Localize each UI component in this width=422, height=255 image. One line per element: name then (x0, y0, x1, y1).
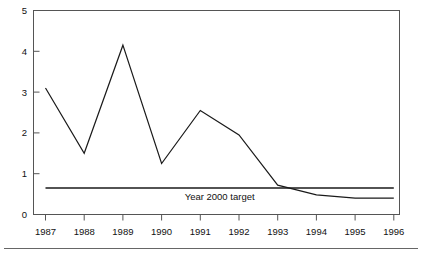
y-axis-labels: 5 4 3 2 1 0 (22, 5, 27, 220)
y-tick-label-1: 1 (22, 168, 27, 179)
x-axis-ticks (46, 215, 394, 221)
y-tick-label-3: 3 (22, 87, 27, 98)
line-chart: 5 4 3 2 1 0 1987 1988 1989 1990 1991 (0, 0, 422, 255)
y-tick-label-2: 2 (22, 127, 27, 138)
x-axis-labels: 1987 1988 1989 1990 1991 1992 1993 1994 … (35, 226, 404, 237)
target-annotation-label: Year 2000 target (185, 191, 255, 202)
plot-frame (34, 11, 400, 215)
x-tick-label-1991: 1991 (190, 226, 211, 237)
chart-figure: 5 4 3 2 1 0 1987 1988 1989 1990 1991 (0, 0, 422, 255)
x-tick-label-1995: 1995 (345, 226, 366, 237)
x-tick-label-1990: 1990 (151, 226, 172, 237)
x-tick-label-1989: 1989 (112, 226, 133, 237)
y-tick-label-0: 0 (22, 209, 27, 220)
x-tick-label-1994: 1994 (306, 226, 327, 237)
x-tick-label-1993: 1993 (267, 226, 288, 237)
x-tick-label-1992: 1992 (228, 226, 249, 237)
x-tick-label-1987: 1987 (35, 226, 56, 237)
x-tick-label-1996: 1996 (383, 226, 404, 237)
x-tick-label-1988: 1988 (74, 226, 95, 237)
y-tick-label-5: 5 (22, 5, 27, 16)
y-tick-label-4: 4 (22, 46, 27, 57)
